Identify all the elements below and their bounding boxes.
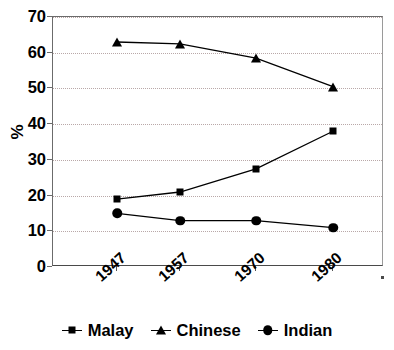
line-chart-figure: % 010203040506070 1947195719701980 Malay… — [0, 0, 394, 350]
legend-entry-indian[interactable]: Indian — [258, 322, 333, 339]
data-point-indian-1970 — [251, 216, 261, 226]
data-point-indian-1947 — [112, 209, 122, 219]
y-tick-label: 10 — [0, 222, 46, 239]
chart-legend: MalayChineseIndian — [0, 322, 394, 339]
data-point-malay-1970 — [253, 165, 260, 172]
series-line-malay — [117, 131, 333, 199]
legend-entry-chinese[interactable]: Chinese — [151, 322, 241, 339]
triangle-marker-icon-glyph — [156, 326, 166, 335]
y-tick-label: 0 — [0, 258, 46, 275]
data-point-chinese-1970 — [251, 54, 261, 63]
data-point-indian-1957 — [175, 216, 185, 226]
triangle-marker-icon — [151, 324, 171, 336]
y-tick-mark — [47, 266, 52, 267]
square-marker-icon-glyph — [68, 327, 75, 334]
data-point-malay-1947 — [114, 196, 121, 203]
square-marker-icon — [62, 324, 82, 336]
data-point-malay-1957 — [177, 189, 184, 196]
data-point-malay-1980 — [330, 128, 337, 135]
series-line-indian — [117, 213, 333, 227]
data-point-chinese-1980 — [328, 82, 338, 91]
data-point-chinese-1947 — [112, 38, 122, 47]
legend-entry-malay[interactable]: Malay — [62, 322, 134, 339]
y-tick-label: 30 — [0, 151, 46, 168]
y-tick-label: 60 — [0, 44, 46, 61]
circle-marker-icon-glyph — [263, 326, 273, 336]
y-tick-label: 50 — [0, 79, 46, 96]
data-point-indian-1980 — [328, 223, 338, 233]
plot-area — [52, 16, 383, 266]
series-line-chinese — [117, 42, 333, 87]
y-tick-label: 20 — [0, 187, 46, 204]
stray-artifact-dot — [381, 276, 384, 279]
y-tick-label: 40 — [0, 115, 46, 132]
legend-label: Malay — [88, 322, 134, 339]
circle-marker-icon — [258, 324, 278, 336]
legend-label: Indian — [284, 322, 333, 339]
y-tick-label: 70 — [0, 8, 46, 25]
legend-label: Chinese — [177, 322, 241, 339]
data-point-chinese-1957 — [175, 39, 185, 48]
